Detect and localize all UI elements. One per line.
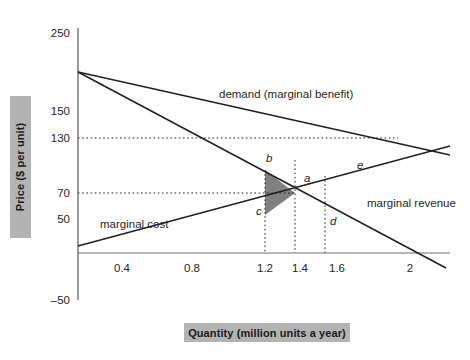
y-tick-neg-50: –50 (34, 294, 70, 306)
y-tick-70: 70 (40, 187, 70, 199)
x-tick-1-6: 1.6 (329, 262, 345, 274)
y-tick-130: 130 (40, 132, 70, 144)
y-axis-title-text: Price ($ per unit) (15, 123, 27, 212)
point-label-d: d (330, 215, 336, 227)
y-tick-150: 150 (40, 105, 70, 117)
point-label-b: b (266, 152, 272, 164)
x-tick-2: 2 (407, 262, 413, 274)
x-tick-0-8: 0.8 (184, 262, 200, 274)
y-tick-250: 250 (40, 27, 70, 39)
x-tick-1-2: 1.2 (257, 262, 273, 274)
x-tick-1-4: 1.4 (292, 262, 308, 274)
x-tick-0-4: 0.4 (114, 262, 130, 274)
marginal-revenue-curve (78, 72, 446, 268)
marginal-cost-curve (78, 146, 450, 246)
chart-plot-area (0, 0, 470, 360)
marginal-revenue-label: marginal revenue (367, 197, 456, 209)
marginal-cost-label: marginal cost (100, 218, 168, 230)
y-axis-title: Price ($ per unit) (10, 96, 31, 238)
chart-figure: Price ($ per unit) Quantity (million uni… (0, 0, 470, 360)
y-tick-50: 50 (40, 213, 70, 225)
x-axis-title-text: Quantity (million units a year) (188, 327, 346, 339)
x-axis-title: Quantity (million units a year) (184, 323, 350, 342)
demand-curve (78, 72, 450, 155)
point-label-c: c (256, 205, 262, 217)
demand-curve-label: demand (marginal benefit) (219, 88, 353, 100)
point-label-a: a (304, 172, 310, 184)
point-label-e: e (357, 159, 363, 171)
